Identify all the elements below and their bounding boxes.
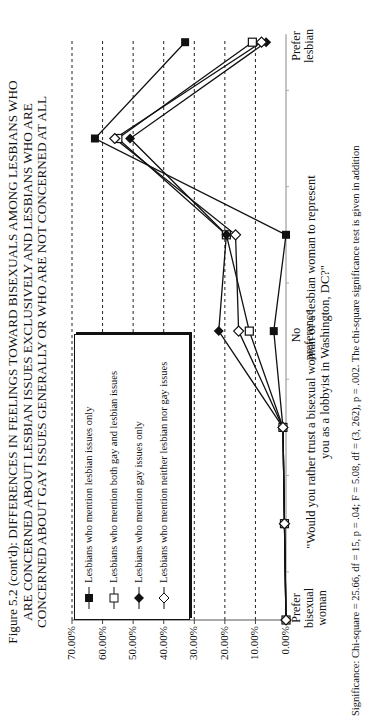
x-title-line-2: you as a lobbyist in Washington, DC?" [318, 0, 332, 724]
filled-square-marker-icon [282, 231, 290, 239]
legend-label: Lesbians who mention lesbian issues only [83, 407, 94, 583]
y-tick-label: 10.00% [248, 626, 260, 678]
legend-item-lesbian-only: Lesbians who mention lesbian issues only [83, 407, 94, 609]
open-square-marker-icon [248, 38, 256, 46]
filled-diamond-marker-icon [134, 587, 144, 609]
x-axis-title: "Would you rather trust a bisexual woman… [304, 0, 332, 724]
rotated-page: Figure 5.2 (cont'd): DIFFERENCES IN FEEL… [0, 0, 374, 724]
legend-label: Lesbians who mention both gay and lesbia… [108, 371, 119, 583]
legend-label: Lesbians who mention gay issues only [133, 421, 144, 583]
filled-square-marker-icon [84, 587, 94, 609]
significance-note: Significance: Chi-square = 25.66, df = 1… [350, 146, 361, 716]
filled-diamond-marker-icon [214, 326, 224, 336]
legend-label: Lesbians who mention neither lesbian nor… [158, 362, 169, 583]
legend: Lesbians who mention lesbian issues only… [74, 334, 190, 620]
y-tick-label: 50.00% [126, 626, 138, 678]
legend-item-neither: Lesbians who mention neither lesbian nor… [158, 362, 169, 609]
filled-square-marker-icon [91, 135, 99, 143]
y-tick-label: 70.00% [65, 626, 77, 678]
legend-item-gay-only: Lesbians who mention gay issues only [133, 421, 144, 609]
open-diamond-marker-icon [159, 587, 169, 609]
open-square-marker-icon [245, 327, 253, 335]
y-tick-label: 60.00% [96, 626, 108, 678]
x-title-line-1: "Would you rather trust a bisexual woman… [304, 0, 318, 724]
y-tick-label: 30.00% [187, 626, 199, 678]
filled-square-marker-icon [181, 38, 189, 46]
y-tick-label: 20.00% [218, 626, 230, 678]
open-square-marker-icon [109, 587, 119, 609]
y-tick-label: 40.00% [157, 626, 169, 678]
legend-item-both: Lesbians who mention both gay and lesbia… [108, 371, 119, 609]
filled-square-marker-icon [270, 327, 278, 335]
open-diamond-marker-icon [234, 326, 244, 336]
